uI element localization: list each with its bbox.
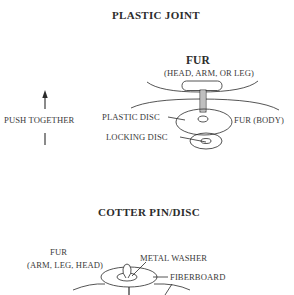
fur-body-label: FUR (BODY) <box>234 116 284 125</box>
stem-end <box>198 116 208 122</box>
push-arrow-head <box>42 90 47 98</box>
diagram-artwork <box>0 0 294 295</box>
fur-label: FUR <box>186 55 210 67</box>
cotter-fur-curve <box>73 284 105 290</box>
plastic-disc-label: PLASTIC DISC <box>102 113 160 122</box>
cotter-fur-label: FUR <box>50 248 67 257</box>
metal-washer-leader <box>132 262 146 276</box>
cotter-pin-title: COTTER PIN/DISC <box>98 207 200 218</box>
joint-cap <box>182 81 222 91</box>
fiberboard-label: FIBERBOARD <box>170 273 225 282</box>
diagram-canvas: PLASTIC JOINT FUR (HEAD, ARM, OR LEG) PU… <box>0 0 294 295</box>
locking-disc-label: LOCKING DISC <box>106 133 168 142</box>
cotter-pin <box>123 264 131 278</box>
metal-washer-label: METAL WASHER <box>140 254 207 263</box>
plastic-joint-title: PLASTIC JOINT <box>112 10 200 21</box>
fur-parts-label: (HEAD, ARM, OR LEG) <box>164 69 254 78</box>
push-together-label: PUSH TOGETHER <box>4 116 74 125</box>
cotter-fur-parts-label: (ARM, LEG, HEAD) <box>27 261 103 270</box>
locking-disc <box>190 133 222 149</box>
